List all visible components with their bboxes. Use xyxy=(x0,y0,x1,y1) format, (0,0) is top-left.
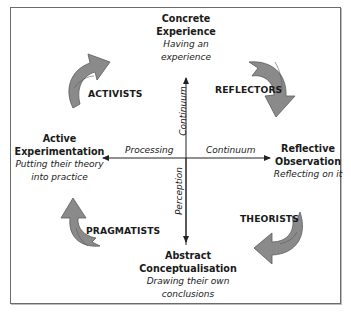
label-reflectors: REFLECTORS xyxy=(215,84,282,95)
stage-abstract-conceptualisation: Abstract Conceptualisation Drawing their… xyxy=(138,250,238,300)
axis-label-processing: Processing xyxy=(125,145,173,155)
label-pragmatists: PRAGMATISTS xyxy=(86,225,160,236)
stage-concrete-experience: Concrete Experience Having an experience xyxy=(146,13,226,63)
stage-title-line2: Experience xyxy=(146,26,226,39)
stage-sub-line1: Putting their theory xyxy=(12,158,107,171)
label-activists: ACTIVISTS xyxy=(88,88,142,99)
stage-title-line1: Abstract xyxy=(138,250,238,263)
activists-arrow-icon xyxy=(69,54,110,108)
label-theorists: THEORISTS xyxy=(240,213,299,224)
stage-sub-line1: Reflecting on it xyxy=(268,168,348,181)
stage-title-line1: Concrete xyxy=(146,13,226,26)
stage-reflective-observation: Reflective Observation Reflecting on it xyxy=(268,143,348,181)
stage-sub-line2: into practice xyxy=(12,171,107,184)
stage-sub-line1: Having an xyxy=(146,38,226,51)
stage-title-line1: Active xyxy=(12,133,107,146)
pragmatists-arrow-icon xyxy=(61,198,100,246)
stage-title-line1: Reflective xyxy=(268,143,348,156)
axis-label-continuum-horizontal: Continuum xyxy=(206,145,255,155)
stage-title-line2: Observation xyxy=(268,156,348,169)
axis-label-perception: Perception xyxy=(174,166,184,216)
axis-label-continuum-vertical: Continuum xyxy=(178,86,188,136)
stage-sub-line1: Drawing their own xyxy=(138,275,238,288)
stage-sub-line2: experience xyxy=(146,51,226,64)
stage-sub-line2: conclusions xyxy=(138,288,238,301)
stage-title-line2: Experimentation xyxy=(12,146,107,159)
stage-active-experimentation: Active Experimentation Putting their the… xyxy=(12,133,107,183)
stage-title-line2: Conceptualisation xyxy=(138,263,238,276)
